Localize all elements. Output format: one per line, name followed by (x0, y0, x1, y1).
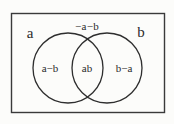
region-a-only-label: a−b (42, 63, 59, 74)
venn-diagram-figure: a b −a−b a−b ab b−a (0, 0, 174, 124)
set-b-outer-label: b (137, 25, 145, 40)
region-intersection-label: ab (82, 63, 92, 74)
set-a-outer-label: a (27, 26, 34, 41)
region-b-only-label: b−a (116, 63, 133, 74)
region-complement-label: −a−b (75, 21, 99, 32)
